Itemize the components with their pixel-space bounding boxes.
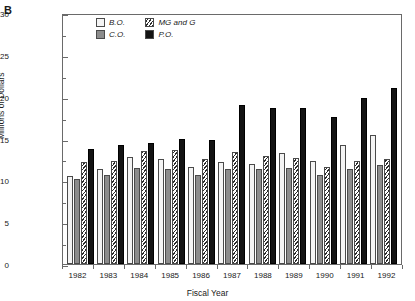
x-axis-title: Fiscal Year	[0, 288, 415, 298]
legend-label: B.O.	[109, 18, 125, 27]
legend: B.O.MG and GC.O.P.O.	[96, 18, 195, 39]
plot-area	[62, 14, 402, 265]
x-tick-label: 1987	[217, 271, 248, 280]
bar-co	[165, 169, 171, 264]
bar-group	[338, 15, 368, 264]
x-tick-label: 1983	[93, 271, 124, 280]
y-axis-title: Millions of Dollars	[0, 72, 6, 139]
legend-swatch-bo	[96, 18, 105, 27]
bar-groups	[63, 15, 401, 264]
x-tick	[309, 265, 310, 269]
bar-po	[391, 88, 397, 264]
x-tick-label: 1986	[186, 271, 217, 280]
bar-group	[95, 15, 125, 264]
bar-bo	[279, 153, 285, 264]
bar-mgg	[263, 156, 269, 264]
y-tick-label: 25	[0, 51, 9, 60]
y-tick-label: 0	[0, 261, 9, 270]
bar-bo	[218, 162, 224, 264]
x-tick-label: 1984	[124, 271, 155, 280]
bar-mgg	[81, 162, 87, 264]
bar-bo	[67, 176, 73, 264]
x-tick	[124, 265, 125, 269]
bar-co	[317, 175, 323, 264]
x-tick	[402, 265, 403, 269]
bar-group	[65, 15, 95, 264]
legend-item-co: C.O.	[96, 30, 125, 39]
x-tick-label: 1989	[278, 271, 309, 280]
bar-group	[126, 15, 156, 264]
bar-co	[134, 168, 140, 264]
x-tick	[340, 265, 341, 269]
x-tick-label: 1991	[340, 271, 371, 280]
bar-bo	[188, 167, 194, 264]
bar-co	[377, 165, 383, 264]
x-tick	[247, 265, 248, 269]
bar-co	[286, 168, 292, 264]
legend-label: C.O.	[109, 30, 125, 39]
bar-po	[300, 108, 306, 264]
bar-mgg	[293, 158, 299, 264]
legend-label: MG and G	[158, 18, 195, 27]
x-tick	[155, 265, 156, 269]
legend-item-po: P.O.	[145, 30, 195, 39]
bar-group	[156, 15, 186, 264]
bar-co	[195, 175, 201, 264]
bar-mgg	[111, 161, 117, 264]
bar-group	[217, 15, 247, 264]
x-tick-label: 1988	[247, 271, 278, 280]
x-tick-label: 1990	[309, 271, 340, 280]
x-tick	[278, 265, 279, 269]
bar-mgg	[384, 159, 390, 264]
bar-group	[278, 15, 308, 264]
bar-co	[104, 175, 110, 264]
x-tick	[186, 265, 187, 269]
bar-mgg	[232, 152, 238, 264]
legend-label: P.O.	[158, 30, 173, 39]
legend-swatch-co	[96, 30, 105, 39]
bar-group	[247, 15, 277, 264]
bar-po	[209, 140, 215, 264]
bar-po	[270, 108, 276, 264]
bar-mgg	[172, 150, 178, 264]
x-tick	[93, 265, 94, 269]
x-tick-label: 1985	[155, 271, 186, 280]
y-tick-label: 15	[0, 135, 9, 144]
bar-bo	[97, 169, 103, 264]
bar-po	[148, 143, 154, 264]
bar-po	[118, 145, 124, 264]
x-tick-label: 1982	[62, 271, 93, 280]
bar-group	[186, 15, 216, 264]
bar-co	[225, 169, 231, 264]
bar-group	[369, 15, 399, 264]
bar-po	[331, 117, 337, 264]
y-tick-label: 30	[0, 10, 9, 19]
bar-bo	[158, 159, 164, 264]
bar-mgg	[354, 161, 360, 264]
bar-group	[308, 15, 338, 264]
bar-po	[179, 139, 185, 265]
legend-item-mgg: MG and G	[145, 18, 195, 27]
x-tick-label: 1992	[371, 271, 402, 280]
legend-swatch-mgg	[145, 18, 154, 27]
bar-po	[239, 105, 245, 264]
bar-bo	[127, 157, 133, 264]
bar-mgg	[202, 159, 208, 264]
bar-co	[74, 179, 80, 264]
bar-bo	[249, 164, 255, 264]
y-tick-label: 5	[0, 219, 9, 228]
figure-panel-b: B Millions of Dollars 051015202530 19821…	[0, 0, 415, 301]
bar-po	[361, 98, 367, 264]
bar-mgg	[141, 151, 147, 264]
x-tick	[217, 265, 218, 269]
bar-po	[88, 149, 94, 264]
legend-swatch-po	[145, 30, 154, 39]
legend-item-bo: B.O.	[96, 18, 125, 27]
bar-co	[256, 169, 262, 264]
x-tick	[62, 265, 63, 269]
y-tick-label: 10	[0, 177, 9, 186]
bar-mgg	[324, 167, 330, 264]
bar-bo	[340, 145, 346, 264]
x-axis-tick-labels: 1982198319841985198619871988198919901991…	[62, 271, 402, 280]
bar-bo	[310, 161, 316, 264]
